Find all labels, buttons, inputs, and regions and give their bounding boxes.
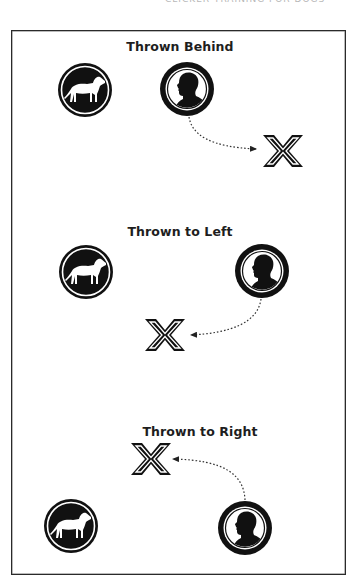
section-thrown-behind [58, 62, 303, 167]
throw-diagram [0, 0, 362, 578]
dotted-arrow [189, 117, 256, 149]
dog-icon [58, 63, 112, 117]
person-icon [160, 62, 214, 116]
x-mark-icon [263, 135, 303, 167]
section-thrown-to-right [44, 443, 272, 555]
x-mark-icon [131, 443, 171, 475]
person-icon [235, 244, 289, 298]
dog-icon [59, 245, 113, 299]
person-icon [218, 501, 272, 555]
dotted-arrow [191, 299, 261, 335]
section-thrown-to-left [59, 244, 289, 351]
x-mark-icon [145, 319, 185, 351]
dog-icon [44, 499, 98, 553]
dotted-arrow [173, 459, 245, 500]
